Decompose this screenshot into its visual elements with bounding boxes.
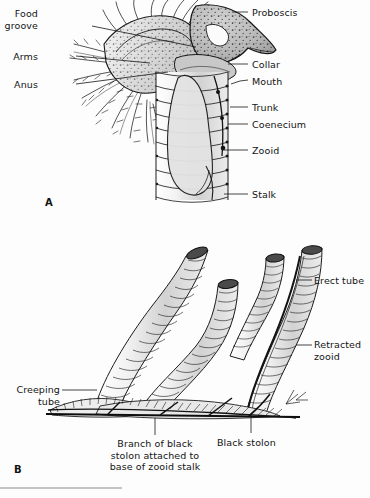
label-anus: Anus — [0, 79, 38, 91]
label-arms: Arms — [0, 51, 38, 63]
label-collar: Collar — [252, 59, 280, 71]
label-stalk: Stalk — [252, 189, 276, 201]
panel-a-illustration — [70, 0, 282, 202]
label-creeping-tube: Creeping tube — [0, 384, 60, 407]
label-coenecium: Coenecium — [252, 119, 306, 131]
label-food-groove: Food groove — [0, 8, 38, 31]
figure-canvas — [0, 0, 370, 498]
label-branch-of-black-stolon: Branch of black stolon attached to base … — [95, 438, 215, 473]
label-erect-tube: Erect tube — [314, 275, 364, 287]
panel-letter-a: A — [45, 197, 53, 208]
panel-b-illustration — [46, 245, 322, 435]
label-mouth: Mouth — [252, 76, 282, 88]
label-proboscis: Proboscis — [252, 7, 298, 19]
panel-letter-b: B — [14, 464, 22, 475]
label-zooid: Zooid — [252, 145, 279, 157]
label-black-stolon: Black stolon — [217, 437, 276, 449]
label-retracted-zooid: Retracted zooid — [314, 339, 361, 362]
label-trunk: Trunk — [252, 102, 278, 114]
